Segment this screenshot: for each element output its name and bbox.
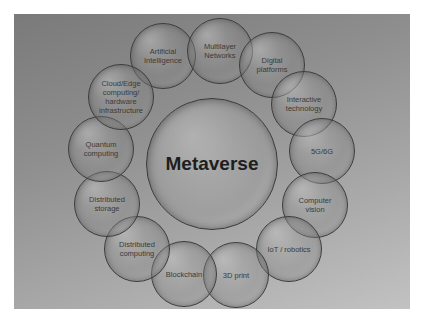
node-label: Computer vision (293, 196, 338, 214)
node-label: Cloud/Edge computing/ hardware infrastru… (93, 79, 149, 115)
node-cloud-edge-computing-hardware-infrastructure: Cloud/Edge computing/ hardware infrastru… (88, 64, 154, 130)
node-label: Quantum computing (78, 140, 125, 158)
node-label: IoT / robotics (261, 245, 316, 254)
node-label: Distributed storage (83, 195, 131, 213)
node-label: Digital platforms (251, 56, 294, 74)
node-label: Multilayer Networks (198, 42, 242, 60)
node-label: Blockchain (160, 270, 208, 279)
node-label: Interactive technology (280, 95, 328, 113)
node-label: 5G/6G (305, 147, 339, 156)
node-label: 3D print (217, 271, 255, 280)
node-label: Distributed computing (113, 240, 161, 258)
center-label: Metaverse (160, 153, 265, 175)
node-label: Artificial Intelligence (138, 47, 188, 65)
center-node-metaverse: Metaverse (146, 98, 278, 230)
diagram-slide: Artificial IntelligenceMultilayer Networ… (14, 14, 410, 309)
